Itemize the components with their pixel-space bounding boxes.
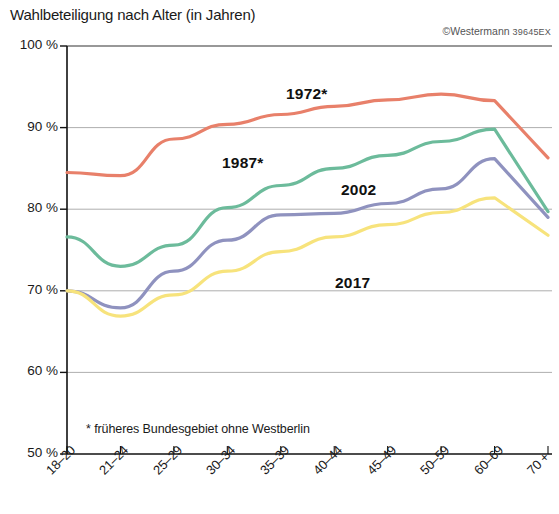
y-axis-labels: 100 %90 %80 %70 %60 %50 % (0, 0, 58, 514)
x-axis-ticks (67, 446, 548, 454)
y-tick-label: 70 % (27, 282, 58, 297)
series-line-2002 (67, 159, 548, 308)
footnote: * früheres Bundesgebiet ohne Westberlin (86, 422, 310, 436)
y-tick-label: 100 % (20, 37, 58, 52)
credit-code: 39645EX (513, 27, 551, 37)
y-tick-label: 90 % (27, 119, 58, 134)
gridlines (60, 46, 552, 454)
copyright-credit: ©Westermann 39645EX (443, 25, 551, 37)
series-label-1972: 1972* (286, 85, 328, 103)
axes (67, 46, 552, 454)
y-tick-label: 80 % (27, 200, 58, 215)
series-label-1987: 1987* (222, 154, 264, 172)
series-label-2002: 2002 (341, 181, 376, 199)
y-tick-label: 60 % (27, 363, 58, 378)
series-label-2017: 2017 (335, 274, 370, 292)
vote-turnout-by-age-chart: Wahlbeteiligung nach Alter (in Jahren) ©… (0, 0, 559, 514)
plot-area (0, 0, 559, 514)
publisher-name: Westermann (450, 25, 509, 37)
